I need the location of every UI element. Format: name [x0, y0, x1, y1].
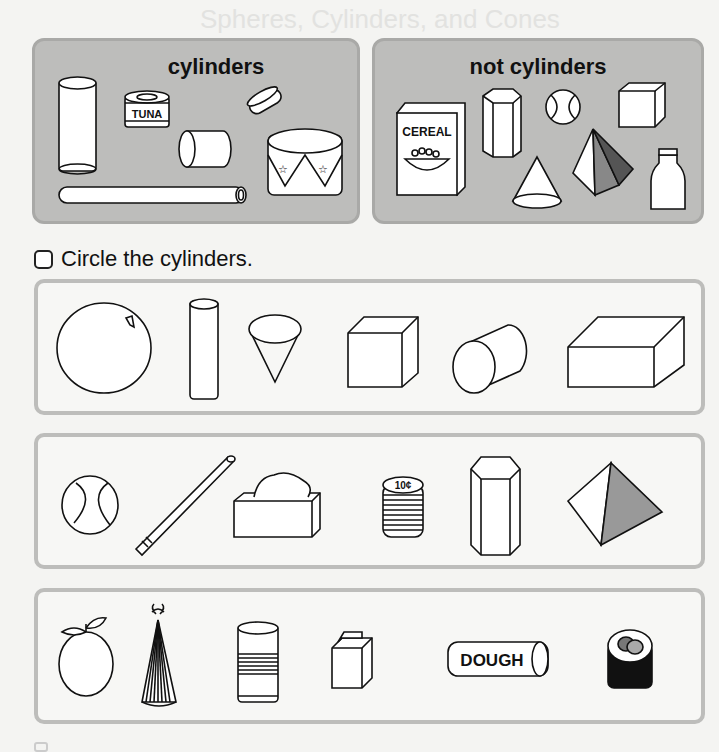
coin-stack-icon[interactable]: 10¢: [383, 477, 423, 537]
glass-icon: [59, 77, 96, 174]
rectangular-prism-icon[interactable]: [568, 317, 684, 387]
instruction: Circle the cylinders.: [34, 246, 253, 272]
sphere-icon[interactable]: [57, 303, 151, 393]
hexagonal-prism-icon: [483, 89, 521, 157]
page-title: Spheres, Cylinders, and Cones: [200, 4, 560, 35]
tennis-ball-icon: [546, 90, 580, 124]
cone-icon: [513, 157, 561, 208]
coin-label: 10¢: [395, 480, 412, 491]
not-cylinders-example-box: not cylinders CEREAL: [372, 38, 704, 224]
hexagonal-prism-icon[interactable]: [471, 457, 520, 555]
cereal-label: CEREAL: [402, 125, 451, 139]
cylinders-example-box: cylinders TUNA ☆ ☆: [32, 38, 360, 224]
dough-tube-icon[interactable]: DOUGH: [448, 642, 548, 676]
exercise-row-2: 10¢: [34, 433, 705, 569]
orange-icon[interactable]: [59, 618, 113, 696]
can-icon[interactable]: [238, 622, 278, 702]
cube-icon[interactable]: [348, 317, 418, 387]
cube-icon: [619, 83, 665, 127]
sushi-roll-icon[interactable]: [608, 630, 652, 688]
straw-icon[interactable]: [136, 456, 235, 555]
toy-drum-icon: ☆ ☆: [268, 129, 342, 195]
svg-text:☆: ☆: [278, 163, 288, 175]
exercise-row-3: DOUGH: [34, 588, 705, 724]
tissue-box-icon[interactable]: [234, 473, 320, 537]
pyramid-icon[interactable]: [568, 463, 662, 545]
task-checkbox[interactable]: [34, 250, 53, 269]
dough-label: DOUGH: [460, 651, 523, 670]
exercise-row-1: [34, 279, 705, 415]
milk-bottle-icon: [651, 149, 685, 209]
cylinder-block-icon: [179, 131, 231, 167]
pyramid-icon: [573, 129, 633, 195]
cereal-box-icon: CEREAL: [397, 103, 465, 195]
svg-text:☆: ☆: [318, 163, 328, 175]
tuna-label: TUNA: [132, 108, 163, 120]
checker-piece-icon: [245, 84, 283, 117]
tuna-can-icon: TUNA: [125, 91, 169, 127]
next-checkbox-partial: [34, 742, 48, 752]
tilted-cylinder-icon[interactable]: [453, 325, 527, 393]
tall-cylinder-icon[interactable]: [190, 299, 218, 399]
pipe-icon: [59, 187, 246, 203]
block-icon[interactable]: [332, 632, 372, 688]
instruction-text: Circle the cylinders.: [61, 246, 253, 272]
tennis-ball-icon[interactable]: [62, 476, 118, 534]
party-hat-icon[interactable]: [142, 604, 176, 706]
cone-icon[interactable]: [249, 315, 301, 382]
